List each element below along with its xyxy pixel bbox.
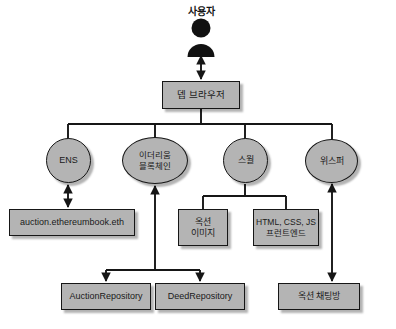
actor-label: 사용자 (156, 3, 246, 18)
node-auction-image[interactable]: 옥션 이미지 (178, 209, 228, 246)
dapp-architecture-diagram: 사용자 뎁 브라우저 ENS 이더리움 블록체인 스월 위스퍼 auction.… (0, 0, 396, 329)
node-auction-repository[interactable]: AuctionRepository (61, 283, 151, 310)
node-deed-repository[interactable]: DeedRepository (155, 283, 245, 310)
node-frontend[interactable]: HTML, CSS, JS 프런트엔드 (253, 209, 319, 246)
node-ethereum-blockchain[interactable]: 이더리움 블록체인 (122, 137, 188, 184)
node-ens[interactable]: ENS (46, 138, 91, 183)
node-auction-chatroom[interactable]: 옥션 채팅방 (278, 283, 360, 310)
node-whisper[interactable]: 위스퍼 (305, 139, 358, 183)
node-swarm[interactable]: 스월 (223, 138, 268, 183)
node-browser[interactable]: 뎁 브라우저 (162, 81, 240, 109)
person-icon (181, 17, 221, 57)
node-ens-name[interactable]: auction.ethereumbook.eth (9, 209, 135, 236)
